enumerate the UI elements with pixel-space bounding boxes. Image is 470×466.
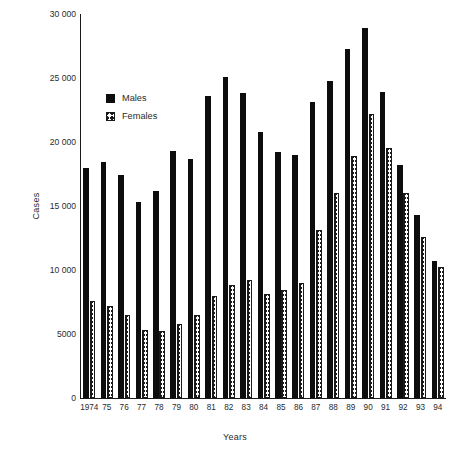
bar-males-79: [170, 151, 176, 398]
x-tick-label: 94: [433, 403, 442, 412]
y-tick-label: 30 000: [10, 9, 76, 19]
bar-females-75: [107, 306, 113, 398]
x-tick-label: 76: [120, 403, 129, 412]
x-axis-tick-labels: 1974757677787980818283848586878889909192…: [80, 403, 446, 419]
x-tick-label: 83: [242, 403, 251, 412]
x-tick-label: 88: [329, 403, 338, 412]
y-tick-label: 0: [10, 393, 76, 403]
y-tick-label: 10 000: [10, 265, 76, 275]
bar-males-81: [205, 96, 211, 398]
x-tick-label: 75: [102, 403, 111, 412]
bar-females-86: [299, 283, 305, 398]
legend-label: Males: [122, 93, 147, 103]
bar-females-76: [125, 315, 131, 398]
bar-females-89: [351, 156, 357, 398]
x-tick-label: 85: [276, 403, 285, 412]
bar-males-82: [223, 77, 229, 398]
bar-males-85: [275, 152, 281, 398]
bar-females-80: [194, 315, 200, 398]
bar-females-79: [177, 324, 183, 398]
plot-bars: [80, 14, 446, 398]
x-tick-label: 93: [416, 403, 425, 412]
x-axis-label: Years: [0, 432, 470, 442]
bar-males-92: [397, 165, 403, 398]
bar-males-77: [136, 202, 142, 398]
x-tick-label: 89: [346, 403, 355, 412]
bar-males-90: [362, 28, 368, 398]
bar-males-93: [414, 215, 420, 398]
bar-females-88: [334, 193, 340, 398]
bar-females-94: [438, 267, 444, 398]
bar-males-83: [240, 93, 246, 398]
x-tick-label: 86: [294, 403, 303, 412]
y-tick-label: 20 000: [10, 137, 76, 147]
x-tick-label: 81: [207, 403, 216, 412]
x-tick-label: 91: [381, 403, 390, 412]
x-tick-label: 78: [154, 403, 163, 412]
bar-females-77: [142, 330, 148, 398]
x-tick-label: 92: [398, 403, 407, 412]
legend-label: Females: [122, 111, 157, 121]
legend-swatch-hatched-icon: [106, 112, 115, 121]
y-tick-label: 15 000: [10, 201, 76, 211]
bar-males-1974: [83, 168, 89, 398]
bar-females-82: [229, 285, 235, 398]
x-tick-label: 84: [259, 403, 268, 412]
bar-males-86: [292, 155, 298, 398]
bar-males-75: [101, 162, 107, 398]
bar-males-88: [327, 81, 333, 398]
bar-females-78: [159, 331, 165, 398]
bar-males-80: [188, 159, 194, 398]
bar-females-93: [421, 237, 427, 398]
bar-females-84: [264, 294, 270, 398]
bar-males-94: [432, 261, 438, 398]
y-tick-label: 5000: [10, 329, 76, 339]
legend-item-females: Females: [106, 107, 216, 125]
bar-males-84: [258, 132, 264, 398]
x-tick-label: 82: [224, 403, 233, 412]
bar-males-76: [118, 175, 124, 398]
x-tick-label: 79: [172, 403, 181, 412]
x-tick-label: 80: [189, 403, 198, 412]
bar-males-87: [310, 102, 316, 398]
bar-males-78: [153, 191, 159, 398]
bar-males-91: [380, 92, 386, 398]
bar-females-1974: [90, 301, 96, 398]
bar-females-90: [369, 114, 375, 398]
bar-males-89: [345, 49, 351, 398]
bar-females-83: [247, 280, 253, 398]
x-tick-label: 77: [137, 403, 146, 412]
x-tick-label: 87: [311, 403, 320, 412]
legend-item-males: Males: [106, 89, 216, 107]
x-tick-label: 90: [364, 403, 373, 412]
y-tick-label: 25 000: [10, 73, 76, 83]
x-tick-label: 1974: [80, 403, 98, 412]
bar-females-85: [281, 290, 287, 398]
bar-females-92: [403, 193, 409, 398]
y-axis-tick-labels: 0500010 00015 00020 00025 00030 000: [4, 0, 76, 466]
bar-females-91: [386, 148, 392, 398]
bar-females-81: [212, 296, 218, 398]
legend-swatch-solid-icon: [106, 94, 115, 103]
bar-females-87: [316, 230, 322, 398]
x-axis-line: [80, 398, 446, 399]
bar-chart: Cases 0500010 00015 00020 00025 00030 00…: [0, 0, 470, 466]
chart-legend: MalesFemales: [106, 89, 216, 125]
